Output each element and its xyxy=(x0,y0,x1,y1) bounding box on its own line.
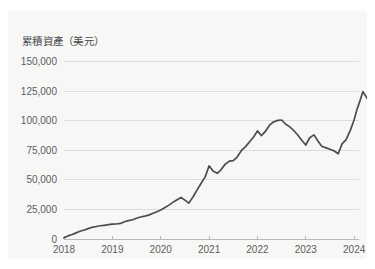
chart-card: 累積資產（美元） 025,00050,00075,000100,000125,0… xyxy=(8,11,367,259)
x-axis-tick-label: 2024 xyxy=(343,244,366,255)
x-axis-tick-label: 2019 xyxy=(101,244,124,255)
y-axis-labels-group: 025,00050,00075,000100,000125,000150,000 xyxy=(21,56,58,244)
y-axis-tick-label: 0 xyxy=(51,234,57,245)
y-axis-tick-label: 50,000 xyxy=(26,174,57,185)
y-axis-tick-label: 75,000 xyxy=(26,145,57,156)
y-axis-tick-label: 150,000 xyxy=(21,56,58,67)
x-axis-tick-label: 2021 xyxy=(198,244,221,255)
x-axis-tick-label: 2023 xyxy=(295,244,318,255)
y-axis-tick-label: 125,000 xyxy=(21,86,58,97)
cumulative-assets-line xyxy=(64,77,367,238)
asset-growth-line-chart: 025,00050,00075,000100,000125,000150,000… xyxy=(8,11,367,259)
x-axis-tick-label: 2020 xyxy=(150,244,173,255)
x-axis-tick-label: 2018 xyxy=(53,244,76,255)
y-axis-tick-label: 25,000 xyxy=(26,204,57,215)
y-axis-tick-label: 100,000 xyxy=(21,115,58,126)
x-axis-tick-label: 2022 xyxy=(246,244,269,255)
